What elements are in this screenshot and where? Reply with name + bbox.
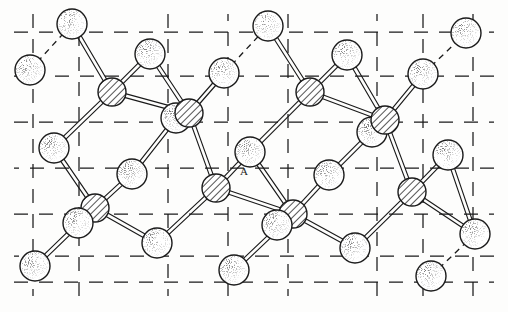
stippled-atom xyxy=(235,137,265,167)
stippled-atom xyxy=(253,11,283,41)
stippled-atom xyxy=(117,159,147,189)
stippled-atom xyxy=(20,251,50,281)
stippled-atom xyxy=(219,255,249,285)
stippled-atom xyxy=(460,219,490,249)
stippled-atom xyxy=(340,233,370,263)
stippled-atom xyxy=(57,9,87,39)
stippled-atom xyxy=(209,58,239,88)
stippled-atom xyxy=(451,18,481,48)
stippled-atom xyxy=(314,160,344,190)
hatched-atom xyxy=(296,78,324,106)
stippled-atom xyxy=(39,133,69,163)
crystal-structure-figure: A xyxy=(0,0,508,312)
stippled-atom xyxy=(135,39,165,69)
lattice-canvas xyxy=(0,0,508,312)
stippled-atom xyxy=(408,59,438,89)
hatched-atom xyxy=(398,178,426,206)
stippled-atom xyxy=(142,228,172,258)
hatched-atom xyxy=(202,174,230,202)
stippled-atom xyxy=(433,140,463,170)
annotation-label-a: A xyxy=(240,165,248,177)
hatched-atom xyxy=(175,99,203,127)
stippled-atom xyxy=(262,210,292,240)
stippled-atom xyxy=(332,40,362,70)
hatched-atom xyxy=(98,78,126,106)
stippled-atom xyxy=(63,208,93,238)
stippled-atom xyxy=(416,261,446,291)
hatched-atom xyxy=(371,106,399,134)
stippled-atom xyxy=(15,55,45,85)
